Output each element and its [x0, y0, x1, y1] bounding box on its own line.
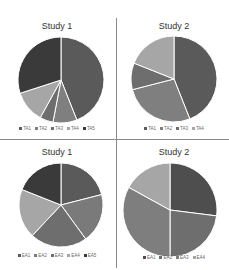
legend-item-ta5: TA5: [83, 126, 95, 131]
legend-swatch: [176, 127, 179, 130]
legend-swatch: [143, 256, 146, 259]
legend-label: EA2: [38, 253, 47, 258]
legend-label: TA4: [196, 126, 204, 131]
legend-swatch: [67, 127, 70, 130]
legend-item-ta4: TA4: [192, 126, 204, 131]
chart-ea-study2: Study 2 EA1EA2EA3EA4: [117, 140, 229, 270]
legend-label: EA1: [147, 255, 156, 260]
legend-swatch: [144, 127, 147, 130]
legend-swatch: [176, 256, 179, 259]
legend-label: TA3: [55, 126, 63, 131]
pie-slice-ea2: [170, 210, 217, 257]
legend-swatch: [51, 254, 54, 257]
legend-item-ta1: TA1: [19, 126, 31, 131]
legend-label: TA2: [39, 126, 47, 131]
chart-title: Study 1: [0, 147, 114, 157]
pie-chart: [122, 162, 218, 258]
legend-label: EA1: [22, 253, 31, 258]
legend-swatch: [19, 127, 22, 130]
legend-label: TA3: [180, 126, 188, 131]
legend-label: TA1: [23, 126, 31, 131]
pie-slice-ea1: [170, 163, 217, 216]
chart-legend: TA1TA2TA3TA4: [117, 126, 229, 131]
chart-legend: EA1EA2EA3EA4EA5: [0, 253, 114, 258]
legend-swatch: [192, 127, 195, 130]
legend-swatch: [51, 127, 54, 130]
pie-chart: [130, 35, 218, 123]
legend-swatch: [193, 256, 196, 259]
legend-label: EA3: [180, 255, 189, 260]
legend-item-ta2: TA2: [160, 126, 172, 131]
legend-item-ea1: EA1: [18, 253, 31, 258]
legend-swatch: [84, 254, 87, 257]
legend-item-ea5: EA5: [84, 253, 97, 258]
chart-title: Study 2: [117, 21, 229, 31]
legend-item-ta2: TA2: [35, 126, 47, 131]
legend-swatch: [34, 254, 37, 257]
legend-label: EA3: [55, 253, 64, 258]
legend-swatch: [160, 127, 163, 130]
legend-label: EA2: [163, 255, 172, 260]
pie-chart: [18, 162, 104, 248]
legend-item-ta1: TA1: [144, 126, 156, 131]
legend-swatch: [67, 254, 70, 257]
legend-item-ta3: TA3: [176, 126, 188, 131]
legend-item-ea2: EA2: [34, 253, 47, 258]
chart-title: Study 2: [117, 147, 229, 157]
chart-legend: TA1TA2TA3TA4TA5: [0, 126, 114, 131]
legend-item-ea1: EA1: [143, 255, 156, 260]
legend-label: EA4: [197, 255, 206, 260]
chart-ea-study1: Study 1 EA1EA2EA3EA4EA5: [0, 140, 114, 270]
chart-ta-study1: Study 1 TA1TA2TA3TA4TA5: [0, 0, 114, 134]
legend-item-ta4: TA4: [67, 126, 79, 131]
legend-label: TA5: [87, 126, 95, 131]
legend-label: TA1: [148, 126, 156, 131]
chart-legend: EA1EA2EA3EA4: [117, 255, 229, 260]
legend-item-ea2: EA2: [159, 255, 172, 260]
pie-chart: [17, 36, 105, 124]
legend-swatch: [35, 127, 38, 130]
legend-item-ea4: EA4: [193, 255, 206, 260]
legend-item-ea3: EA3: [176, 255, 189, 260]
legend-label: EA5: [88, 253, 97, 258]
chart-title: Study 1: [0, 21, 114, 31]
legend-swatch: [83, 127, 86, 130]
chart-ta-study2: Study 2 TA1TA2TA3TA4: [117, 0, 229, 134]
legend-item-ta3: TA3: [51, 126, 63, 131]
legend-item-ea4: EA4: [67, 253, 80, 258]
legend-label: TA4: [71, 126, 79, 131]
legend-label: EA4: [71, 253, 80, 258]
legend-label: TA2: [164, 126, 172, 131]
legend-swatch: [18, 254, 21, 257]
legend-item-ea3: EA3: [51, 253, 64, 258]
